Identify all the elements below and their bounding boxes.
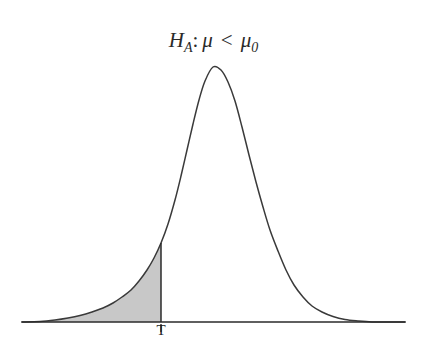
title-reference-parameter: μ — [240, 28, 252, 52]
density-curve — [22, 66, 405, 322]
title-colon: : — [192, 28, 198, 52]
title-reference-subscript: 0 — [251, 40, 258, 55]
rejection-region-shading — [40, 243, 161, 322]
title-hypothesis-subscript: A — [183, 40, 193, 55]
critical-value-label: T — [156, 322, 165, 338]
title-parameter: μ — [201, 28, 213, 52]
figure-title: HA:μ<μ0 — [168, 28, 259, 55]
title-operator: < — [221, 28, 233, 52]
hypothesis-test-distribution-figure: HA:μ<μ0 T — [0, 0, 427, 361]
